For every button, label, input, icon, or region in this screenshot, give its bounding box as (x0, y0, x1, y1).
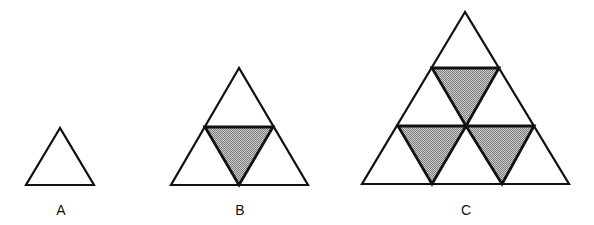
triangle-figure: A B C (0, 0, 594, 225)
panel-b (171, 68, 308, 185)
label-b: B (235, 202, 244, 218)
panel-c (362, 12, 569, 184)
triangle-c-shaded-right (466, 126, 534, 184)
triangle-a-outline (26, 128, 94, 185)
panel-a (26, 128, 94, 185)
triangle-c-shaded-left (398, 126, 466, 184)
label-c: C (461, 202, 471, 218)
label-a: A (56, 202, 66, 218)
triangle-c-shaded-top (432, 68, 499, 126)
triangle-b-shaded-center (205, 127, 273, 185)
